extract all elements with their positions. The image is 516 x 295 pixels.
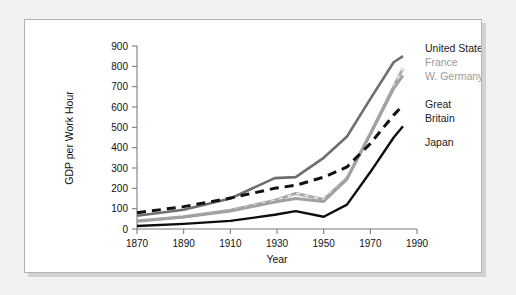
x-axis-ticks xyxy=(137,229,417,234)
x-tick-label-1950: 1950 xyxy=(313,238,336,249)
y-tick-label-300: 300 xyxy=(111,163,128,174)
x-tick-label-1870: 1870 xyxy=(126,238,149,249)
series-lines-group xyxy=(137,56,403,226)
y-axis-group: 0100200300400500600700800900 GDP per Wor… xyxy=(63,41,137,235)
y-axis-title: GDP per Work Hour xyxy=(63,91,75,185)
y-tick-label-900: 900 xyxy=(111,41,128,52)
legend-label-w-germany: W. Germany xyxy=(425,70,481,82)
legend-label-united-states: United States xyxy=(425,42,481,54)
y-tick-label-600: 600 xyxy=(111,102,128,113)
series-line-france-base xyxy=(137,68,403,221)
x-tick-label-1910: 1910 xyxy=(219,238,242,249)
x-tick-label-1970: 1970 xyxy=(359,238,382,249)
x-tick-label-1890: 1890 xyxy=(173,238,196,249)
y-tick-label-800: 800 xyxy=(111,61,128,72)
y-tick-label-400: 400 xyxy=(111,142,128,153)
series-line-w-germany xyxy=(137,75,403,221)
y-tick-label-0: 0 xyxy=(122,224,128,235)
figure-card: 0100200300400500600700800900 GDP per Wor… xyxy=(24,19,482,273)
y-axis-ticks xyxy=(132,46,137,229)
y-tick-label-500: 500 xyxy=(111,122,128,133)
legend-label-france: France xyxy=(425,56,458,68)
series-line-great-britain xyxy=(137,105,403,213)
legend-label-britain: Britain xyxy=(425,112,455,124)
x-axis-tick-labels: 1870189019101930195019701990 xyxy=(126,238,429,249)
x-axis-group: 1870189019101930195019701990 Year xyxy=(126,229,429,265)
x-axis-title: Year xyxy=(266,253,288,265)
y-axis-tick-labels: 0100200300400500600700800900 xyxy=(111,41,128,235)
series-line-united-states xyxy=(137,56,403,216)
x-tick-label-1930: 1930 xyxy=(266,238,289,249)
chart-surface: 0100200300400500600700800900 GDP per Wor… xyxy=(25,20,481,272)
y-tick-label-700: 700 xyxy=(111,81,128,92)
gdp-per-work-hour-line-chart: 0100200300400500600700800900 GDP per Wor… xyxy=(25,20,481,272)
y-tick-label-200: 200 xyxy=(111,183,128,194)
y-tick-label-100: 100 xyxy=(111,203,128,214)
x-tick-label-1990: 1990 xyxy=(406,238,429,249)
legend-label-japan: Japan xyxy=(425,136,454,148)
legend-group: United States France W. Germany Great Br… xyxy=(425,42,481,148)
legend-label-great: Great xyxy=(425,98,451,110)
page-root: 0100200300400500600700800900 GDP per Wor… xyxy=(0,0,516,295)
